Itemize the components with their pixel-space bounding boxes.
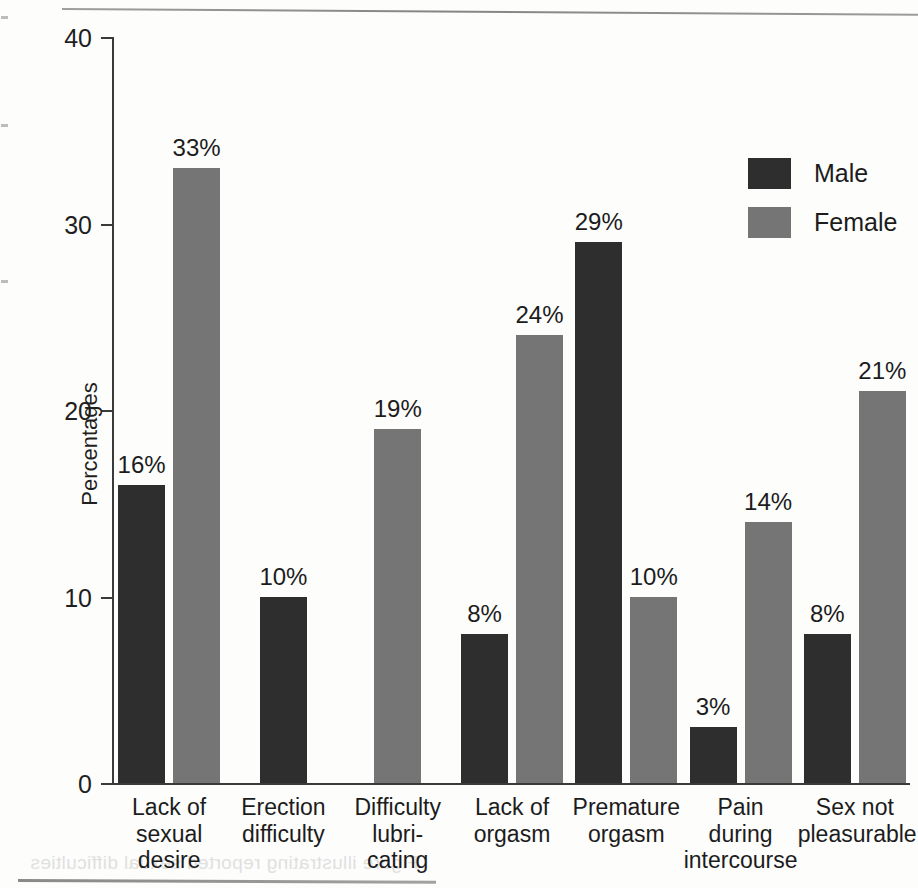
bar-value-label: 8% <box>810 600 845 628</box>
bar-value-label: 19% <box>374 395 422 423</box>
x-axis-category-label: Prematureorgasm <box>569 794 683 847</box>
bar-value-label: 10% <box>630 563 678 591</box>
page-rule-top <box>62 8 918 16</box>
category-label-line: orgasm <box>455 821 569 848</box>
x-axis-line <box>112 783 910 785</box>
chart-page: Figure illustrating reported sexual diff… <box>0 0 918 888</box>
bar-male: 16% <box>118 485 165 783</box>
bar-female: 21% <box>859 391 906 783</box>
bar-female: 14% <box>745 522 792 783</box>
chart-legend: Male Female <box>748 158 897 256</box>
y-axis-tick-label: 40 <box>64 24 92 53</box>
bar-male: 10% <box>260 597 307 784</box>
x-axis-category-label: Lack oforgasm <box>455 794 569 847</box>
category-label-line: desire <box>112 847 226 874</box>
legend-label-female: Female <box>814 208 897 237</box>
category-label-line: Lack of <box>455 794 569 821</box>
category-label-line: sexual <box>112 821 226 848</box>
category-label-line: difficulty <box>226 821 340 848</box>
scan-edge-mark <box>1 124 8 127</box>
category-label-line: intercourse <box>683 847 797 874</box>
bar-value-label: 3% <box>696 693 731 721</box>
category-label-line: orgasm <box>569 821 683 848</box>
page-rule-bottom <box>18 879 436 884</box>
bar-male: 8% <box>804 634 851 783</box>
y-axis-line <box>112 37 114 785</box>
y-axis-tick-label: 0 <box>78 770 92 799</box>
category-label-line: Pain during <box>683 794 797 847</box>
x-axis-category-label: Difficultylubri-cating <box>341 794 455 874</box>
scan-edge-mark <box>1 16 8 19</box>
bar-female: 24% <box>516 335 563 783</box>
category-label-line: pleasurable <box>798 821 912 848</box>
y-axis-label: Percentages <box>77 382 103 506</box>
bar-female: 19% <box>374 429 421 783</box>
bar-value-label: 33% <box>173 134 221 162</box>
bar-value-label: 16% <box>118 451 166 479</box>
y-axis-tick: 40 <box>101 37 112 39</box>
legend-swatch-male-icon <box>748 158 791 189</box>
y-axis-tick: 10 <box>101 597 112 599</box>
plot-area: 010203040 16%33%10%19%8%24%29%10%3%14%8%… <box>112 37 912 785</box>
category-label-line: Erection <box>226 794 340 821</box>
bar-value-label: 21% <box>858 357 906 385</box>
bar-value-label: 10% <box>259 563 307 591</box>
legend-item-male: Male <box>748 158 897 189</box>
legend-swatch-female-icon <box>748 207 791 238</box>
legend-label-male: Male <box>814 159 868 188</box>
x-axis-category-label: Lack ofsexualdesire <box>112 794 226 874</box>
category-label-line: cating <box>341 847 455 874</box>
y-axis-tick: 0 <box>101 783 112 785</box>
bar-female: 10% <box>630 597 677 784</box>
bar-value-label: 24% <box>515 301 563 329</box>
category-label-line: lubri- <box>341 821 455 848</box>
x-axis-category-label: Erectiondifficulty <box>226 794 340 847</box>
category-label-line: Sex not <box>798 794 912 821</box>
y-axis-tick: 30 <box>101 224 112 226</box>
bar-female: 33% <box>173 168 220 783</box>
category-label-line: Premature <box>569 794 683 821</box>
bar-value-label: 29% <box>575 208 623 236</box>
x-axis-category-label: Sex notpleasurable <box>798 794 912 847</box>
bar-male: 8% <box>461 634 508 783</box>
y-axis-tick-label: 30 <box>64 210 92 239</box>
bar-male: 29% <box>575 242 622 783</box>
bar-value-label: 14% <box>744 488 792 516</box>
x-axis-category-label: Pain duringintercourse <box>683 794 797 874</box>
bar-value-label: 8% <box>467 600 502 628</box>
category-label-line: Difficulty <box>341 794 455 821</box>
bar-male: 3% <box>690 727 737 783</box>
category-label-line: Lack of <box>112 794 226 821</box>
legend-item-female: Female <box>748 207 897 238</box>
scan-edge-mark <box>1 280 8 283</box>
y-axis-tick-label: 10 <box>64 583 92 612</box>
